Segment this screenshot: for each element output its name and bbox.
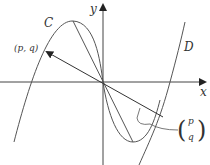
vector-arrow bbox=[47, 52, 163, 117]
right-angle-marker bbox=[137, 108, 150, 124]
vector-q: q bbox=[188, 132, 194, 142]
curve-c bbox=[14, 21, 160, 142]
point-pq-label: (p, q) bbox=[14, 43, 39, 53]
x-axis-label: x bbox=[200, 85, 207, 99]
vector-right-paren: ) bbox=[197, 116, 206, 144]
curve-c-label: C bbox=[44, 16, 53, 30]
diagram-canvas: y x C D (p, q) ( p q ) bbox=[0, 0, 210, 165]
vector-left-paren: ( bbox=[177, 116, 186, 144]
y-axis-label: y bbox=[89, 2, 97, 16]
curve-d-label: D bbox=[183, 40, 194, 54]
vector-p: p bbox=[188, 116, 194, 126]
